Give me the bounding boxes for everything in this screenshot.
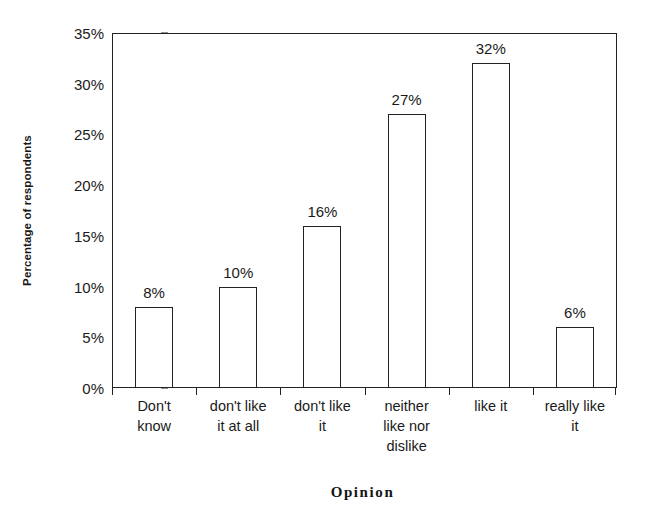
bar[interactable] (388, 114, 426, 388)
y-axis-title: Percentage of respondents (16, 33, 38, 388)
y-axis-ticks: 0%5%10%15%20%25%30%35% (56, 0, 104, 528)
x-tick-mark (196, 388, 197, 395)
x-category-label: don't likeit (280, 396, 364, 436)
bar-slot: 10% (196, 33, 280, 388)
bar-slot: 16% (280, 33, 364, 388)
x-tick-mark (533, 388, 534, 395)
y-tick-label: 10% (58, 278, 104, 295)
bar-value-label: 16% (307, 203, 337, 220)
bar-chart-figure: Percentage of respondents 0%5%10%15%20%2… (0, 0, 649, 528)
y-tick-label: 5% (58, 329, 104, 346)
bars-layer: 8%10%16%27%32%6% (112, 33, 617, 388)
bar-slot: 6% (533, 33, 617, 388)
y-tick-label: 30% (58, 75, 104, 92)
x-category-label-line: it (280, 416, 364, 436)
y-tick-label: 25% (58, 126, 104, 143)
x-tick-mark (112, 388, 113, 395)
x-tick-mark (365, 388, 366, 395)
x-category-label: neitherlike nordislike (365, 396, 449, 456)
x-category-label: Don'tknow (112, 396, 196, 436)
x-category-label-line: dislike (365, 436, 449, 456)
x-axis-labels: Don'tknowdon't likeit at alldon't likeit… (112, 396, 617, 474)
bar-value-label: 32% (476, 40, 506, 57)
x-category-label-line: don't like (280, 396, 364, 416)
bar[interactable] (135, 307, 173, 388)
bar[interactable] (556, 327, 594, 388)
x-category-label-line: neither (365, 396, 449, 416)
x-category-label-line: Don't (112, 396, 196, 416)
y-tick-label: 20% (58, 177, 104, 194)
x-category-label-line: like nor (365, 416, 449, 436)
x-category-label-line: it (533, 416, 617, 436)
x-category-label-line: really like (533, 396, 617, 416)
y-tick-label: 15% (58, 227, 104, 244)
bar-value-label: 8% (143, 284, 165, 301)
bar[interactable] (472, 63, 510, 388)
x-tick-mark (449, 388, 450, 395)
x-category-label: really likeit (533, 396, 617, 436)
bar[interactable] (219, 287, 257, 388)
bar[interactable] (303, 226, 341, 388)
x-category-label: don't likeit at all (196, 396, 280, 436)
x-tick-mark (615, 388, 616, 395)
bar-value-label: 27% (392, 91, 422, 108)
bar-slot: 32% (449, 33, 533, 388)
bar-slot: 8% (112, 33, 196, 388)
bar-slot: 27% (365, 33, 449, 388)
y-tick-label: 35% (58, 25, 104, 42)
x-category-label-line: like it (449, 396, 533, 416)
x-category-label: like it (449, 396, 533, 416)
y-tick-label: 0% (58, 380, 104, 397)
bar-value-label: 10% (223, 264, 253, 281)
bar-value-label: 6% (564, 304, 586, 321)
x-category-label-line: know (112, 416, 196, 436)
x-category-label-line: don't like (196, 396, 280, 416)
x-tick-mark (280, 388, 281, 395)
x-axis-title: Opinion (0, 484, 649, 501)
x-category-label-line: it at all (196, 416, 280, 436)
